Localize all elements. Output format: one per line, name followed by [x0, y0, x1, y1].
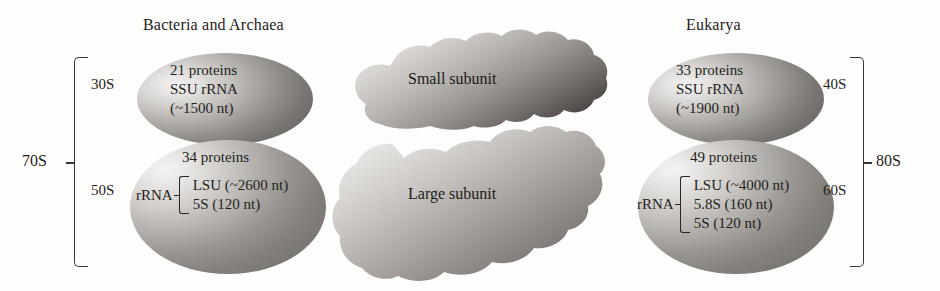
rrna-item-list-bacteria: LSU (~2600 nt) 5S (120 nt) — [193, 176, 289, 214]
large-subunit-rrna-group-bacteria: rRNA LSU (~2600 nt) 5S (120 nt) — [136, 176, 288, 214]
brace-tick-80s — [863, 162, 872, 164]
rrna-item: 5S (120 nt) — [193, 195, 289, 214]
ribosome-large-subunit-silhouette — [322, 122, 614, 284]
s-value-40s: 40S — [823, 76, 846, 93]
rrna-item: 5.8S (160 nt) — [694, 195, 790, 214]
brace-70s — [74, 57, 88, 267]
small-subunit-proteins-eukarya: 33 proteins — [676, 61, 744, 80]
small-subunit-proteins-bacteria: 21 proteins — [170, 61, 238, 80]
brace-80s — [850, 57, 864, 267]
brace-tick-70s — [66, 162, 75, 164]
s-value-60s: 60S — [823, 182, 846, 199]
center-label-large-subunit: Large subunit — [408, 185, 496, 203]
s-value-30s: 30S — [91, 76, 114, 93]
small-subunit-rrna-name-bacteria: SSU rRNA — [170, 80, 238, 99]
small-subunit-text-eukarya: 33 proteins SSU rRNA (~1900 nt) — [676, 61, 744, 118]
center-label-small-subunit: Small subunit — [408, 70, 496, 88]
small-subunit-rrna-name-eukarya: SSU rRNA — [676, 80, 744, 99]
rrna-brace-bacteria — [179, 176, 189, 214]
large-subunit-rrna-group-eukarya: rRNA LSU (~4000 nt) 5.8S (160 nt) 5S (12… — [637, 176, 789, 233]
rrna-label-bacteria: rRNA — [136, 186, 174, 205]
column-heading-bacteria-archaea: Bacteria and Archaea — [143, 16, 284, 34]
small-subunit-rrna-length-eukarya: (~1900 nt) — [676, 99, 744, 118]
rrna-item: LSU (~4000 nt) — [694, 176, 790, 195]
rrna-item: 5S (120 nt) — [694, 214, 790, 233]
rrna-brace-eukarya — [680, 176, 690, 233]
rrna-item: LSU (~2600 nt) — [193, 176, 289, 195]
rrna-label-eukarya: rRNA — [637, 195, 675, 214]
large-subunit-proteins-eukarya: 49 proteins — [690, 148, 757, 167]
small-subunit-rrna-length-bacteria: (~1500 nt) — [170, 99, 238, 118]
small-subunit-text-bacteria: 21 proteins SSU rRNA (~1500 nt) — [170, 61, 238, 118]
ribosome-diagram: Bacteria and Archaea Eukarya 21 proteins… — [0, 0, 940, 291]
s-value-50s: 50S — [91, 182, 114, 199]
total-s-value-bacteria: 70S — [22, 152, 47, 170]
total-s-value-eukarya: 80S — [876, 152, 901, 170]
rrna-item-list-eukarya: LSU (~4000 nt) 5.8S (160 nt) 5S (120 nt) — [694, 176, 790, 233]
column-heading-eukarya: Eukarya — [686, 16, 741, 34]
large-subunit-proteins-bacteria: 34 proteins — [182, 148, 249, 167]
